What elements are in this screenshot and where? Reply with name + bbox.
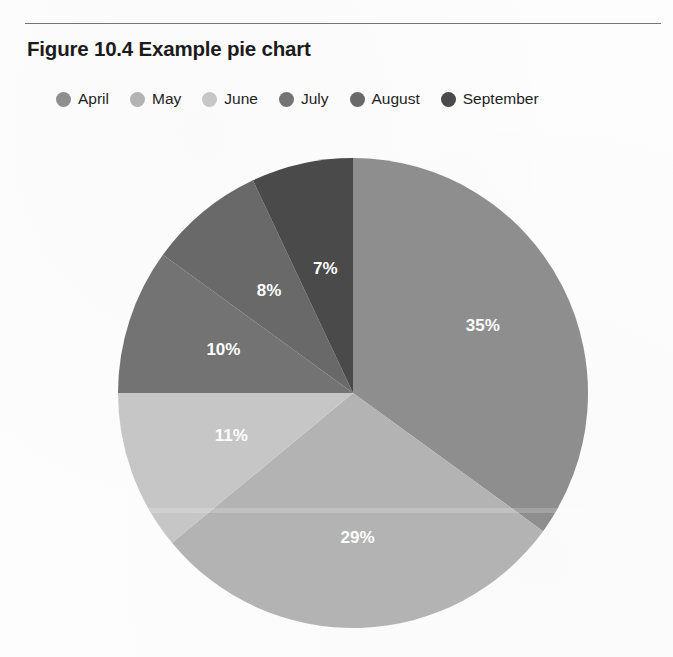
legend-swatch-icon — [130, 92, 145, 107]
pie-slice-group — [118, 158, 588, 628]
chart-legend: AprilMayJuneJulyAugustSeptember — [56, 88, 560, 110]
legend-item-label: June — [224, 90, 258, 108]
legend-item-label: July — [301, 90, 329, 108]
pie-slice-label-july: 10% — [206, 340, 240, 359]
legend-swatch-icon — [279, 92, 294, 107]
legend-item-july: July — [279, 90, 329, 108]
pie-slice-label-june: 11% — [215, 426, 248, 445]
pie-slice-label-april: 35% — [466, 316, 500, 335]
legend-item-september: September — [441, 90, 539, 108]
pie-slice-label-august: 8% — [257, 281, 282, 300]
horizontal-rule — [25, 23, 661, 24]
figure-title: Figure 10.4 Example pie chart — [27, 37, 311, 61]
legend-item-label: April — [78, 90, 109, 108]
legend-item-label: May — [152, 90, 181, 108]
legend-swatch-icon — [350, 92, 365, 107]
legend-swatch-icon — [441, 92, 456, 107]
pie-chart: 35%29%11%10%8%7% — [117, 157, 589, 629]
pie-slice-label-september: 7% — [313, 259, 338, 278]
pie-slice-label-may: 29% — [341, 528, 375, 547]
pie-chart-svg: 35%29%11%10%8%7% — [117, 157, 589, 629]
legend-item-label: August — [372, 90, 420, 108]
legend-item-may: May — [130, 90, 181, 108]
legend-swatch-icon — [56, 92, 71, 107]
legend-item-august: August — [350, 90, 420, 108]
legend-swatch-icon — [202, 92, 217, 107]
legend-item-label: September — [463, 90, 539, 108]
legend-item-april: April — [56, 90, 109, 108]
legend-item-june: June — [202, 90, 258, 108]
